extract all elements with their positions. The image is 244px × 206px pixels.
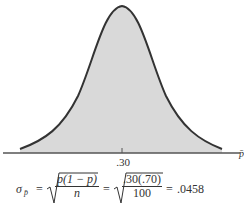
fraction-1-denominator: n <box>55 187 99 200</box>
sigma-subscript: p̄ <box>24 188 28 197</box>
normal-curve-chart <box>0 0 244 170</box>
equals-sign-3: = <box>166 182 173 197</box>
mean-tick-label: .30 <box>112 156 134 168</box>
fraction-1-numerator: p(1 − p) <box>55 173 99 187</box>
x-axis-label: p̄ <box>239 148 244 159</box>
standard-error-formula: σ p̄ = p(1 − p) n = .30(.70) 100 = .0458 <box>0 171 244 206</box>
fraction-2-numerator: .30(.70) <box>122 173 162 187</box>
equals-sign-1: = <box>36 182 43 197</box>
sigma-symbol: σ <box>16 182 22 197</box>
standard-error-result: .0458 <box>177 182 204 197</box>
equals-sign-2: = <box>103 182 110 197</box>
fraction-2-denominator: 100 <box>122 187 162 200</box>
fraction-1: p(1 − p) n <box>55 173 99 200</box>
fraction-2: .30(.70) 100 <box>122 173 162 200</box>
